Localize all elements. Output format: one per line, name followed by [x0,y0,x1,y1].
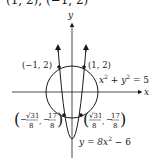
svg-text:√31: √31 [26,112,39,120]
svg-text:8: 8 [113,122,117,130]
label-top-left: (−1, 2) [22,60,52,70]
svg-text:17: 17 [111,112,120,120]
y-axis-label: y [67,10,74,20]
svg-text:8: 8 [50,122,54,130]
label-bottom-right: ( √31 8 , − 17 8 ) [83,110,126,130]
svg-text:8: 8 [29,122,33,130]
svg-text:√31: √31 [89,112,102,120]
point-top-left [57,65,61,69]
svg-text:): ) [120,110,126,129]
point-top-right [82,65,86,69]
svg-text:17: 17 [48,112,57,120]
svg-text:8: 8 [92,122,96,130]
parabola-equation: y = 8x2 − 6 [78,135,131,147]
graph: (1, 2), (−1, 2) x y (−1, 2) (1, 2) x2 + … [0,0,154,158]
header-text: (1, 2), (−1, 2) [6,0,88,7]
svg-text:,: , [102,117,105,126]
circle-equation: x2 + y2 = 5 [99,73,149,85]
x-axis-label: x [144,87,149,97]
label-bottom-left: ( − √31 8 , − 17 8 ) [14,110,63,130]
svg-text:): ) [57,110,63,129]
label-top-right: (1, 2) [88,60,111,70]
svg-text:,: , [39,117,42,126]
